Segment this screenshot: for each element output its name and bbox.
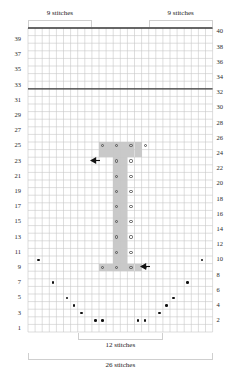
row-label-left-31: 31 bbox=[3, 97, 21, 104]
grid-lines bbox=[0, 0, 246, 380]
circle-marker bbox=[129, 235, 132, 238]
row-label-left-27: 27 bbox=[3, 127, 21, 134]
dot-marker bbox=[101, 319, 104, 322]
row-label-right-28: 28 bbox=[217, 120, 235, 127]
row-label-right-30: 30 bbox=[217, 104, 235, 111]
row-label-right-18: 18 bbox=[217, 196, 235, 203]
row-label-left-7: 7 bbox=[3, 279, 21, 286]
direction-arrow-left bbox=[140, 256, 150, 263]
row-label-left-5: 5 bbox=[3, 294, 21, 301]
row-label-left-1: 1 bbox=[3, 325, 21, 332]
row-label-left-39: 39 bbox=[3, 36, 21, 43]
row-label-right-16: 16 bbox=[217, 211, 235, 218]
circle-marker bbox=[129, 205, 132, 208]
top-bracket-1 bbox=[28, 20, 92, 27]
row-label-right-6: 6 bbox=[217, 287, 235, 294]
dot-marker bbox=[165, 304, 168, 307]
circle-marker bbox=[129, 190, 132, 193]
circle-marker bbox=[115, 235, 118, 238]
row-label-left-29: 29 bbox=[3, 112, 21, 119]
dot-marker bbox=[186, 281, 189, 284]
row-label-left-35: 35 bbox=[3, 66, 21, 73]
dot-marker bbox=[158, 312, 161, 315]
row-label-left-15: 15 bbox=[3, 218, 21, 225]
dot-marker bbox=[94, 319, 97, 322]
circle-marker bbox=[115, 159, 118, 162]
top-bracket-label-2: 9 stitches bbox=[149, 10, 213, 17]
row-label-left-23: 23 bbox=[3, 158, 21, 165]
row-label-right-4: 4 bbox=[217, 302, 235, 309]
circle-marker bbox=[129, 251, 132, 254]
chart-width-label: 26 stitches bbox=[28, 362, 213, 369]
row-label-right-40: 40 bbox=[217, 28, 235, 35]
row-label-left-3: 3 bbox=[3, 310, 21, 317]
row-label-right-34: 34 bbox=[217, 74, 235, 81]
row-label-left-11: 11 bbox=[3, 249, 21, 256]
row-label-right-8: 8 bbox=[217, 272, 235, 279]
row-label-right-24: 24 bbox=[217, 150, 235, 157]
row-label-right-32: 32 bbox=[217, 89, 235, 96]
row-label-left-37: 37 bbox=[3, 51, 21, 58]
bottom-bracket-label-1: 12 stitches bbox=[78, 342, 163, 349]
direction-arrow-left bbox=[90, 150, 100, 157]
row-label-right-20: 20 bbox=[217, 180, 235, 187]
row-label-right-38: 38 bbox=[217, 44, 235, 51]
circle-marker bbox=[129, 144, 132, 147]
chart-width-bracket bbox=[28, 353, 213, 360]
circle-marker bbox=[129, 220, 132, 223]
row-label-left-13: 13 bbox=[3, 234, 21, 241]
row-label-right-2: 2 bbox=[217, 317, 235, 324]
row-label-right-14: 14 bbox=[217, 226, 235, 233]
circle-marker bbox=[129, 266, 132, 269]
circle-marker bbox=[129, 175, 132, 178]
top-bracket-2 bbox=[149, 20, 213, 27]
row-label-right-36: 36 bbox=[217, 59, 235, 66]
row-label-left-25: 25 bbox=[3, 142, 21, 149]
dot-marker bbox=[52, 281, 55, 284]
row-label-left-21: 21 bbox=[3, 173, 21, 180]
row-label-left-33: 33 bbox=[3, 82, 21, 89]
row-label-right-22: 22 bbox=[217, 165, 235, 172]
stitch-chart: 3937353331292725232119171513119753140383… bbox=[0, 0, 246, 380]
bottom-bracket-1 bbox=[78, 333, 163, 340]
row-label-left-9: 9 bbox=[3, 264, 21, 271]
row-label-left-19: 19 bbox=[3, 188, 21, 195]
row-label-left-17: 17 bbox=[3, 203, 21, 210]
dot-marker bbox=[37, 259, 40, 262]
row-label-right-12: 12 bbox=[217, 241, 235, 248]
top-bracket-label-1: 9 stitches bbox=[28, 10, 92, 17]
row-label-right-10: 10 bbox=[217, 256, 235, 263]
circle-marker bbox=[129, 159, 132, 162]
dot-marker bbox=[80, 312, 83, 315]
dot-marker bbox=[172, 297, 175, 300]
row-label-right-26: 26 bbox=[217, 135, 235, 142]
